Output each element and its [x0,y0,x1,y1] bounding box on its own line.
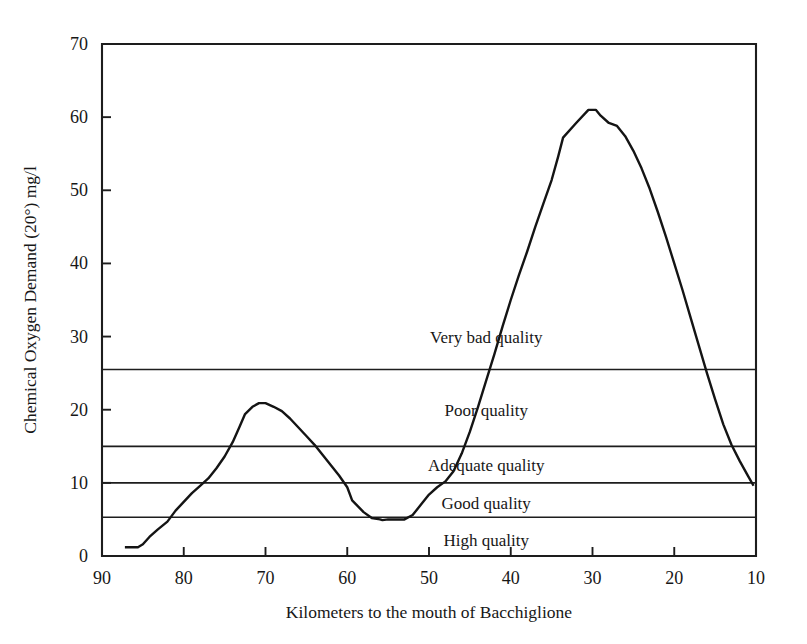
y-axis-title: Chemical Oxygen Demand (20°) mg/l [20,166,40,434]
x-tick-label: 50 [420,568,438,588]
x-tick-label: 80 [175,568,193,588]
x-tick-label: 10 [747,568,765,588]
quality-band-label: Poor quality [444,401,528,420]
y-tick-label: 70 [70,34,88,54]
quality-band-label: Adequate quality [428,456,545,475]
cod-quality-line-chart: 010203040506070 908070605040302010 Very … [0,0,807,644]
x-tick-label: 40 [502,568,520,588]
quality-band-label: Very bad quality [430,328,543,347]
y-tick-label: 40 [70,253,88,273]
x-tick-label: 30 [584,568,602,588]
y-tick-label: 20 [70,400,88,420]
chart-figure: 010203040506070 908070605040302010 Very … [0,0,807,644]
y-tick-label: 60 [70,107,88,127]
x-tick-label: 70 [257,568,275,588]
quality-band-label: High quality [443,531,529,550]
y-tick-label: 30 [70,327,88,347]
y-tick-label: 50 [70,180,88,200]
chart-background [0,0,807,644]
y-tick-label: 0 [79,546,88,566]
quality-band-label: Good quality [442,494,532,513]
x-axis-title: Kilometers to the mouth of Bacchiglione [286,602,572,622]
x-tick-label: 60 [338,568,356,588]
y-tick-label: 10 [70,473,88,493]
x-tick-label: 90 [93,568,111,588]
x-tick-label: 20 [665,568,683,588]
